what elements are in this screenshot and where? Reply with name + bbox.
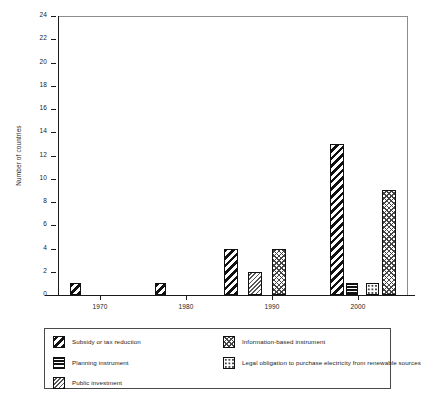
bar <box>70 283 81 295</box>
x-tick-mark <box>358 295 359 300</box>
bar <box>382 190 396 295</box>
legend-item[interactable]: Planning instrument <box>53 357 141 369</box>
bar <box>330 144 344 295</box>
legend-swatch <box>53 377 65 389</box>
x-tick-mark <box>100 295 101 300</box>
bar <box>272 249 286 296</box>
bar <box>155 283 166 295</box>
legend-label: Legal obligation to purchase electricity… <box>242 359 421 367</box>
legend-swatch <box>223 336 235 348</box>
legend-label: Subsidy or tax reduction <box>72 338 141 346</box>
x-tick-label: 2000 <box>342 303 374 310</box>
bar <box>224 249 238 296</box>
y-tick-mark <box>51 295 56 296</box>
x-tick-label: 1970 <box>84 303 116 310</box>
legend-label: Information-based instrument <box>242 338 325 346</box>
bar <box>248 272 262 295</box>
bars-layer <box>0 0 420 295</box>
legend-item[interactable]: Legal obligation to purchase electricity… <box>223 357 421 369</box>
legend-item[interactable]: Public investment <box>53 377 141 389</box>
x-tick-label: 1980 <box>170 303 202 310</box>
legend-swatch <box>53 336 65 348</box>
legend-item[interactable]: Subsidy or tax reduction <box>53 336 141 348</box>
legend-label: Planning instrument <box>72 359 129 367</box>
bar <box>366 283 379 295</box>
legend: Subsidy or tax reductionPlanning instrum… <box>44 328 391 389</box>
legend-column-left: Subsidy or tax reductionPlanning instrum… <box>53 336 141 398</box>
x-tick-mark <box>186 295 187 300</box>
legend-swatch <box>53 357 65 369</box>
x-tick-label: 1990 <box>256 303 288 310</box>
x-tick-mark <box>272 295 273 300</box>
legend-swatch <box>223 357 235 369</box>
legend-column-right: Information-based instrumentLegal obliga… <box>223 336 421 377</box>
bar <box>346 283 358 295</box>
legend-label: Public investment <box>72 379 122 387</box>
legend-item[interactable]: Information-based instrument <box>223 336 421 348</box>
